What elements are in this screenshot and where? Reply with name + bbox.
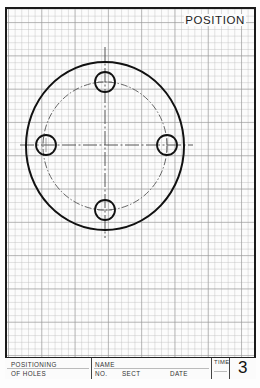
date-label: DATE [170,370,188,377]
sheet-number: 3 [230,358,256,378]
student-info-cell: NAME NO. SECT DATE [92,358,212,379]
exercise-cell: POSITIONING OF HOLES [5,358,92,379]
no-label: NO. [95,370,107,377]
rule-line [94,368,209,369]
rule-line [214,371,227,372]
sect-label: SECT [122,370,140,377]
time-cell: TIME [212,358,230,379]
name-label: NAME [95,361,115,368]
rule-line [7,368,89,369]
time-label: TIME [214,359,229,365]
drawing-sheet: POSITION POSITIONING OF HOLES NAME NO. S… [0,0,260,388]
exercise-line-2: OF HOLES [11,370,46,377]
title-block: POSITIONING OF HOLES NAME NO. SECT DATE … [5,357,256,379]
flange-drawing [0,0,260,388]
exercise-line-1: POSITIONING [11,361,57,368]
sheet-number-cell: 3 [230,358,256,379]
